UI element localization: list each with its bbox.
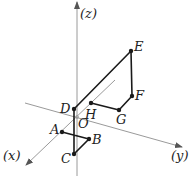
point-a [60,130,64,134]
z-axis-label: (z) [80,6,97,21]
point-label-e: E [133,39,144,54]
point-d [72,107,76,111]
y-axis-label: (y) [171,148,189,163]
point-label-a: A [49,122,59,137]
y-axis [25,103,182,147]
point-c [72,152,76,156]
point-label-c: C [61,151,71,166]
axes [25,2,182,176]
origin-label: O [78,116,89,131]
point-label-f: F [134,88,145,103]
point-label-d: D [59,101,71,116]
point-b [87,137,91,141]
x-axis-label: (x) [3,148,20,163]
point-f [130,94,134,98]
point-label-b: B [91,132,102,147]
point-h [89,101,93,105]
diagram-canvas: (x)(y)(z)ABCDEFGHO [0,0,194,176]
point-label-g: G [116,112,126,127]
point-e [129,49,133,53]
coordinate-diagram: (x)(y)(z)ABCDEFGHO [0,0,194,176]
